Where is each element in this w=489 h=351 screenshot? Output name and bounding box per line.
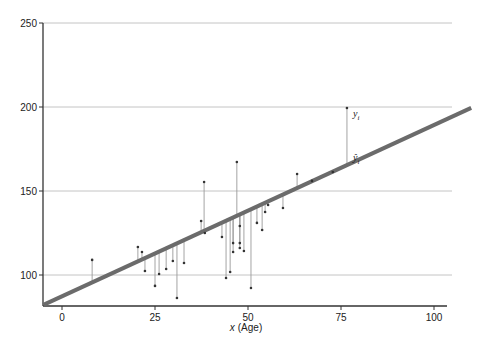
data-point [141,251,144,254]
observed-y-label: yi [352,108,359,122]
data-point [264,211,267,214]
data-point [165,268,168,271]
data-point [137,246,140,249]
y-tick-label: 250 [20,18,37,29]
x-tick-label: 25 [149,312,161,323]
subscript: i [357,158,359,166]
data-point [236,161,239,164]
data-point [239,242,242,245]
data-point [346,107,349,110]
x-axis-unit: (Age) [238,322,262,333]
data-point [221,236,224,239]
data-point [239,247,242,250]
x-tick-label: 100 [426,312,443,323]
x-tick-label: 75 [335,312,347,323]
data-point [144,270,147,273]
data-point [200,220,203,223]
data-point [154,285,157,288]
data-points [91,107,348,300]
data-point [239,225,242,228]
subscript: i [357,114,359,122]
data-point [229,271,232,274]
data-point [232,242,235,245]
data-point [250,287,253,290]
data-point [296,173,299,176]
data-point [158,273,161,276]
y-tick-label: 150 [20,186,37,197]
data-point [225,277,228,280]
data-point [267,204,270,207]
axes: 1001502002500255075100 [20,18,447,324]
data-point [204,232,207,235]
x-axis-variable: x [229,322,236,333]
data-point [232,251,235,254]
data-point [203,181,206,184]
gridlines [43,23,452,275]
data-point [282,207,285,210]
x-axis-label: x(Age) [229,322,262,333]
data-point [256,222,259,225]
data-point [261,229,264,232]
data-point [243,250,246,253]
annotations: yiŷi [352,108,359,166]
data-point [311,180,314,183]
data-point [172,260,175,263]
x-tick-label: 0 [59,312,65,323]
data-point [176,297,179,300]
y-tick-label: 100 [20,270,37,281]
data-point [183,262,186,265]
data-point [91,259,94,262]
data-point [332,171,335,174]
residual-lines [92,108,347,298]
regression-chart: 1001502002500255075100 yiŷi x(Age) [0,0,489,351]
y-tick-label: 200 [20,102,37,113]
